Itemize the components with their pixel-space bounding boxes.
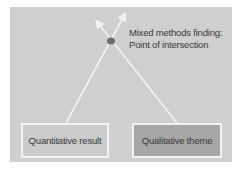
finding-label-line2: Point of intersection — [129, 39, 222, 51]
qualitative-theme-label: Qualitative theme — [142, 135, 213, 146]
finding-label: Mixed methods finding: Point of intersec… — [129, 27, 222, 51]
quant-line — [66, 16, 124, 123]
qualitative-theme-box: Qualitative theme — [132, 123, 222, 158]
intersection-dot — [107, 38, 115, 45]
quantitative-result-box: Quantitative result — [21, 123, 109, 158]
quantitative-result-label: Quantitative result — [29, 135, 102, 146]
finding-label-line1: Mixed methods finding: — [129, 27, 222, 39]
